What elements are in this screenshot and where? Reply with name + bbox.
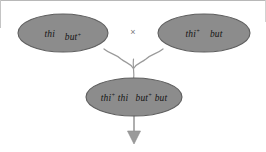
parent-right-allele1: thi — [186, 29, 197, 39]
parent-right-genotype: thi+ but — [186, 28, 223, 38]
offspring-allele1: thi — [101, 93, 112, 103]
parent-left-allele1: thi — [45, 29, 56, 39]
connector-center-to-offspring — [133, 59, 134, 79]
genetic-cross-figure: thi but+ thi+ but × thi+ thi but+ but — [0, 0, 266, 152]
offspring-allele3: but — [136, 93, 149, 103]
cross-operator-symbol: × — [130, 27, 135, 37]
offspring-allele2: thi — [118, 93, 129, 103]
diagram-canvas: thi but+ thi+ but × thi+ thi but+ but — [0, 0, 266, 152]
parent-left-allele2-sup: + — [77, 32, 81, 38]
offspring-genotype: thi+ thi but+ but — [101, 92, 168, 102]
connector-group — [104, 49, 163, 79]
parent-left-node[interactable]: thi but+ — [18, 14, 108, 52]
parent-right-node[interactable]: thi+ but — [158, 14, 250, 52]
connector-right-to-center — [134, 49, 163, 68]
connector-left-to-center — [104, 49, 133, 68]
offspring-allele4: but — [155, 93, 168, 103]
arrow-head — [128, 131, 141, 144]
parent-right-allele2: but — [210, 29, 223, 39]
offspring-node[interactable]: thi+ thi but+ but — [86, 78, 182, 116]
parent-left-allele2: but — [65, 32, 78, 42]
result-arrow — [128, 114, 141, 144]
